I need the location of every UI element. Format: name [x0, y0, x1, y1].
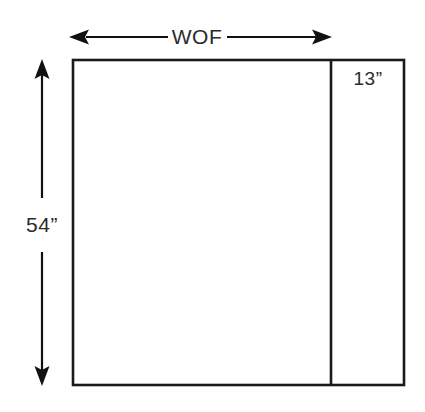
fabric-rectangle [73, 60, 404, 385]
width-dimension-label: WOF [172, 25, 222, 48]
fabric-layout-diagram: WOF 54” 13” [0, 0, 425, 412]
height-dimension-label: 54” [26, 213, 58, 236]
diagram-canvas: WOF 54” 13” [0, 0, 425, 412]
right-panel-width-label: 13” [354, 68, 383, 89]
